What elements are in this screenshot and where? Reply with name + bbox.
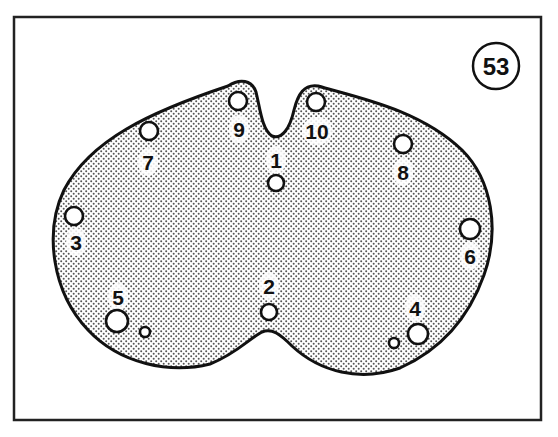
small-hole-near-4: [389, 338, 399, 348]
hole-circle: [229, 92, 247, 110]
hole-label: 5: [112, 286, 124, 309]
hole-circle: [268, 175, 284, 191]
hole-label: 1: [270, 149, 282, 172]
hole-label: 6: [464, 245, 476, 268]
hole-label: 4: [409, 297, 421, 320]
hole-circle: [460, 219, 480, 239]
hole-circle: [65, 207, 83, 225]
hole-circle: [307, 93, 325, 111]
small-hole-near-5: [140, 327, 150, 337]
hole-circle: [140, 122, 158, 140]
hole-label: 2: [263, 275, 275, 298]
hole-label: 8: [397, 161, 409, 184]
hole-circle: [408, 324, 428, 344]
hole-circle: [106, 310, 128, 332]
figure-number-badge: 53: [473, 43, 519, 89]
hole-label: 7: [142, 151, 154, 174]
hole-label: 9: [233, 118, 245, 141]
hole-circle: [394, 135, 412, 153]
hole-circle: [261, 304, 277, 320]
bolt-hole-1: 1: [266, 146, 286, 191]
figure-number: 53: [483, 53, 510, 80]
hole-label: 3: [70, 231, 82, 254]
hole-label: 10: [305, 120, 328, 143]
gasket-diagram: 53 12345678910: [0, 0, 558, 437]
